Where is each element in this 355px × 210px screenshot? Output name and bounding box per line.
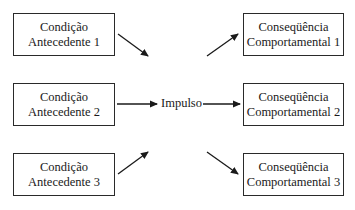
antecedent-2-line2: Antecedente 2 — [28, 105, 100, 120]
arrow-impulse-to-consequence-3 — [207, 152, 238, 174]
arrow-antecedent-3-to-impulse — [118, 152, 148, 174]
arrow-impulse-to-consequence-1 — [207, 34, 238, 56]
antecedent-condition-1-box: Condição Antecedente 1 — [13, 13, 115, 56]
antecedent-condition-3-box: Condição Antecedente 3 — [13, 153, 115, 196]
antecedent-3-line2: Antecedente 3 — [28, 175, 100, 190]
antecedent-1-line2: Antecedente 1 — [28, 35, 100, 50]
antecedent-2-line1: Condição — [40, 90, 88, 105]
consequence-2-line1: Conseqüência — [258, 90, 328, 105]
impulse-label: Impulso — [161, 96, 202, 111]
consequence-3-line2: Comportamental 3 — [247, 175, 340, 190]
antecedent-3-line1: Condição — [40, 160, 88, 175]
consequence-3-line1: Conseqüência — [258, 160, 328, 175]
consequence-1-line1: Conseqüência — [258, 20, 328, 35]
behavioral-consequence-2-box: Conseqüência Comportamental 2 — [243, 83, 344, 126]
antecedent-condition-2-box: Condição Antecedente 2 — [13, 83, 115, 126]
behavioral-consequence-1-box: Conseqüência Comportamental 1 — [243, 13, 344, 56]
antecedent-1-line1: Condição — [40, 20, 88, 35]
arrow-antecedent-1-to-impulse — [118, 34, 148, 56]
consequence-2-line2: Comportamental 2 — [247, 105, 340, 120]
consequence-1-line2: Comportamental 1 — [247, 35, 340, 50]
behavioral-consequence-3-box: Conseqüência Comportamental 3 — [243, 153, 344, 196]
